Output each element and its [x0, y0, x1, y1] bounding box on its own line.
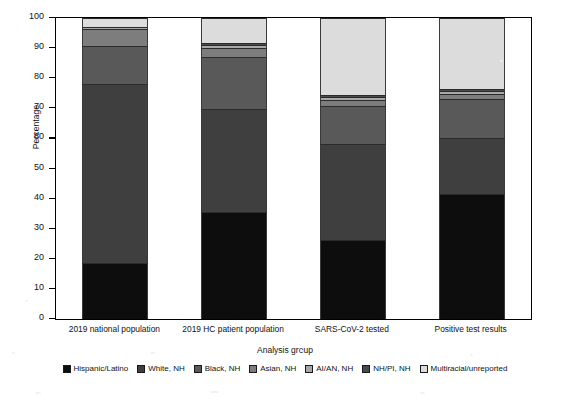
y-axis-tick: 90	[0, 47, 55, 48]
stacked-bar[interactable]	[82, 18, 148, 319]
bar-segment[interactable]	[439, 138, 505, 194]
bar-segment[interactable]	[201, 43, 267, 45]
bar-segment[interactable]	[320, 144, 386, 241]
legend-swatch-icon	[249, 365, 257, 373]
legend-item[interactable]: AI/AN, NH	[305, 365, 353, 373]
bar-segment[interactable]	[320, 95, 386, 97]
scan-artifact	[420, 392, 425, 394]
stacked-bar[interactable]	[320, 18, 386, 319]
bar-segment[interactable]	[320, 18, 386, 95]
bar-segment[interactable]	[82, 29, 148, 46]
x-axis-tick-label: Positive test results	[411, 324, 530, 334]
bar-segment[interactable]	[82, 263, 148, 319]
y-axis-tick-label: 90	[34, 41, 44, 51]
legend-item[interactable]: Asian, NH	[249, 365, 296, 373]
bar-segment[interactable]	[320, 97, 386, 100]
legend-label: Hispanic/Latino	[74, 365, 129, 373]
scan-artifact	[210, 391, 219, 393]
bar-segment[interactable]	[201, 45, 267, 48]
bar-segment[interactable]	[201, 18, 267, 43]
bar-segment[interactable]	[439, 18, 505, 89]
y-axis-tick: 70	[0, 107, 55, 108]
chart-figure: Percentage 0102030405060708090100 2019 n…	[0, 0, 570, 400]
x-axis-tick-label: 2019 national population	[55, 324, 174, 334]
bar-segment[interactable]	[320, 240, 386, 319]
bar-segment[interactable]	[82, 18, 148, 27]
legend-label: Asian, NH	[260, 365, 296, 373]
bar-group	[320, 18, 386, 319]
legend-label: AI/AN, NH	[316, 365, 353, 373]
bar-segment[interactable]	[439, 99, 505, 138]
legend-item[interactable]: Multiracial/unreported	[420, 365, 508, 373]
chart-legend: Hispanic/LatinoWhite, NHBlack, NHAsian, …	[0, 365, 570, 373]
bar-segment[interactable]	[201, 109, 267, 212]
legend-swatch-icon	[137, 365, 145, 373]
bar-segment[interactable]	[439, 91, 505, 94]
legend-swatch-icon	[194, 365, 202, 373]
y-axis-tick-label: 70	[34, 101, 44, 111]
bar-segment[interactable]	[82, 27, 148, 29]
y-axis-tick-label: 100	[29, 11, 44, 21]
bar-segment[interactable]	[201, 48, 267, 58]
legend-label: White, NH	[148, 365, 184, 373]
bar-segment[interactable]	[439, 94, 505, 99]
y-axis-tick-label: 60	[34, 131, 44, 141]
x-axis-title: Analysis group	[0, 345, 570, 355]
y-axis-tick: 40	[0, 198, 55, 199]
bar-segment[interactable]	[201, 57, 267, 109]
x-axis-tick-label: 2019 HC patient population	[174, 324, 293, 334]
bar-segment[interactable]	[82, 84, 148, 263]
legend-item[interactable]: White, NH	[137, 365, 184, 373]
legend-swatch-icon	[63, 365, 71, 373]
legend-item[interactable]: NH/PI, NH	[362, 365, 410, 373]
stacked-bar[interactable]	[201, 18, 267, 319]
bar-segment[interactable]	[201, 212, 267, 319]
y-axis-tick: 60	[0, 137, 55, 138]
bar-group	[82, 18, 148, 319]
y-axis-tick: 100	[0, 17, 55, 18]
scan-artifact	[35, 392, 41, 394]
bar-group	[201, 18, 267, 319]
y-axis-tick: 10	[0, 288, 55, 289]
y-axis-tick: 30	[0, 228, 55, 229]
scan-artifact	[25, 300, 28, 302]
y-axis-tick-label: 50	[34, 162, 44, 172]
y-axis-tick: 20	[0, 258, 55, 259]
stacked-bar[interactable]	[439, 18, 505, 319]
y-axis-tick-label: 10	[34, 282, 44, 292]
x-axis-tick-label: SARS-CoV-2 tested	[293, 324, 412, 334]
y-axis-tick-label: 40	[34, 192, 44, 202]
bar-segment[interactable]	[320, 100, 386, 106]
y-axis-tick-label: 0	[39, 312, 44, 322]
legend-swatch-icon	[362, 365, 370, 373]
legend-item[interactable]: Hispanic/Latino	[63, 365, 129, 373]
legend-swatch-icon	[305, 365, 313, 373]
bar-group	[439, 18, 505, 319]
plot-area	[55, 17, 532, 320]
bar-segment[interactable]	[439, 194, 505, 319]
y-axis-tick-label: 20	[34, 252, 44, 262]
y-axis-tick-label: 30	[34, 222, 44, 232]
bar-segment[interactable]	[82, 46, 148, 84]
y-axis-tick: 80	[0, 77, 55, 78]
y-axis-tick-label: 80	[34, 71, 44, 81]
legend-label: Multiracial/unreported	[431, 365, 508, 373]
legend-label: Black, NH	[205, 365, 241, 373]
bar-segment[interactable]	[439, 89, 505, 91]
y-axis-tick: 0	[0, 318, 55, 319]
legend-swatch-icon	[420, 365, 428, 373]
legend-item[interactable]: Black, NH	[194, 365, 241, 373]
bar-segment[interactable]	[320, 106, 386, 144]
legend-label: NH/PI, NH	[373, 365, 410, 373]
y-axis-tick: 50	[0, 168, 55, 169]
